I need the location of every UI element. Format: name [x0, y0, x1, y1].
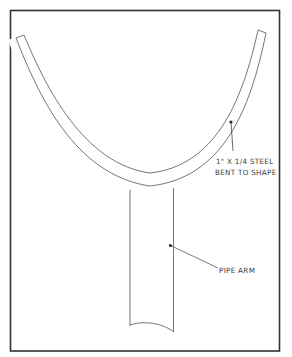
pipe-break-line	[130, 323, 174, 332]
pipe-arm	[130, 178, 174, 332]
drawing-frame	[11, 11, 280, 352]
pipe-label: PIPE ARM	[219, 266, 255, 275]
technical-drawing: 1" X 1/4 STEEL BENT TO SHAPE PIPE ARM	[0, 0, 292, 357]
steel-label-line1: 1" X 1/4 STEEL	[216, 157, 273, 166]
drawing-canvas: 1" X 1/4 STEEL BENT TO SHAPE PIPE ARM	[0, 0, 292, 357]
steel-label-line2: BENT TO SHAPE	[215, 168, 277, 177]
steel-bar-right-end	[258, 30, 266, 33]
steel-bar-left-end	[16, 35, 24, 38]
pipe-leader	[169, 244, 218, 268]
